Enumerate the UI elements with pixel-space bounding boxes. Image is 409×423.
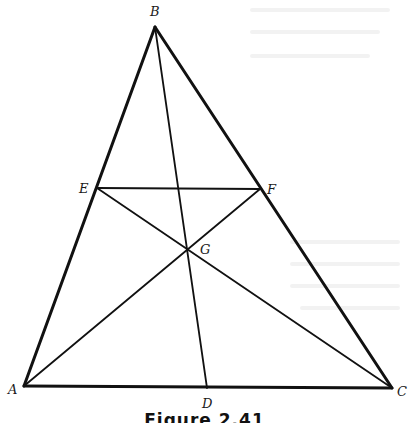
point-label-g: G: [200, 242, 210, 257]
segment-ac: [24, 386, 392, 388]
segment-bc: [155, 27, 392, 388]
point-label-a: A: [7, 382, 17, 397]
point-label-e: E: [78, 181, 89, 196]
point-label-d: D: [201, 396, 213, 411]
figure-caption: Figure 2.41: [0, 410, 409, 423]
point-label-f: F: [266, 182, 277, 197]
segment-ef: [97, 188, 260, 189]
segment-bd: [155, 27, 207, 388]
point-label-c: C: [397, 384, 407, 399]
triangle-diagram: ABCDEFG: [0, 0, 409, 423]
figure-page: ABCDEFG Figure 2.41: [0, 0, 409, 423]
segments-layer: [24, 27, 392, 388]
point-label-b: B: [149, 4, 160, 19]
